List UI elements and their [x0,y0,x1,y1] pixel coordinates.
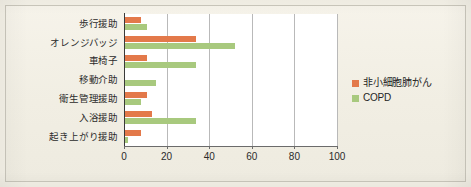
x-tick-label-80: 80 [289,150,300,164]
x-tick-label-20: 20 [161,150,172,164]
legend-label-1: COPD [363,93,391,103]
x-tick-mark-0 [124,146,125,149]
x-axis-line [124,146,337,147]
x-tick-mark-80 [294,146,295,149]
chart-legend: 非小細胞肺がん COPD [352,76,464,106]
bar-series-container [124,14,337,146]
bar-group [124,71,337,90]
y-axis-label-0: 歩行援助 [14,14,122,33]
x-axis-tick-labels: 020406080100 [124,150,337,166]
legend-label-0: 非小細胞肺がん [363,78,432,88]
bar [124,99,141,105]
legend-item-1: COPD [352,91,464,105]
bar-group [124,14,337,33]
bar [124,36,196,42]
bar [124,111,152,117]
x-tick-mark-40 [209,146,210,149]
y-axis-label-5: 入浴援助 [14,108,122,127]
y-axis-label-4: 衛生管理援助 [14,89,122,108]
bar [124,118,196,124]
x-tick-mark-20 [167,146,168,149]
y-axis-label-6: 起き上がり援助 [14,127,122,146]
bar-group [124,127,337,146]
bar [124,130,141,136]
bar-group [124,89,337,108]
x-tick-label-60: 60 [246,150,257,164]
bar-group [124,33,337,52]
x-tick-label-100: 100 [329,150,346,164]
bar [124,80,156,86]
y-axis-label-2: 車椅子 [14,52,122,71]
bar [124,17,141,23]
legend-swatch-icon-0 [352,80,359,87]
gridline-100 [337,14,338,146]
x-tick-mark-100 [337,146,338,149]
bar-group [124,108,337,127]
legend-swatch-icon-1 [352,95,359,102]
plot-area [124,14,337,146]
x-tick-mark-60 [252,146,253,149]
bar-group [124,52,337,71]
bar [124,62,196,68]
x-tick-label-0: 0 [121,150,127,164]
y-axis-label-1: オレンジバッジ [14,33,122,52]
horizontal-bar-chart: 歩行援助 オレンジバッジ 車椅子 移動介助 衛生管理援助 入浴援助 起き上がり援… [0,0,471,187]
x-tick-label-40: 40 [204,150,215,164]
bar [124,92,147,98]
legend-item-0: 非小細胞肺がん [352,76,464,90]
bar [124,43,235,49]
bar [124,55,147,61]
y-axis-category-labels: 歩行援助 オレンジバッジ 車椅子 移動介助 衛生管理援助 入浴援助 起き上がり援… [14,14,122,146]
bar [124,24,147,30]
chart-figure: 歩行援助 オレンジバッジ 車椅子 移動介助 衛生管理援助 入浴援助 起き上がり援… [0,0,471,187]
y-axis-label-3: 移動介助 [14,71,122,90]
y-axis-line [124,13,125,147]
